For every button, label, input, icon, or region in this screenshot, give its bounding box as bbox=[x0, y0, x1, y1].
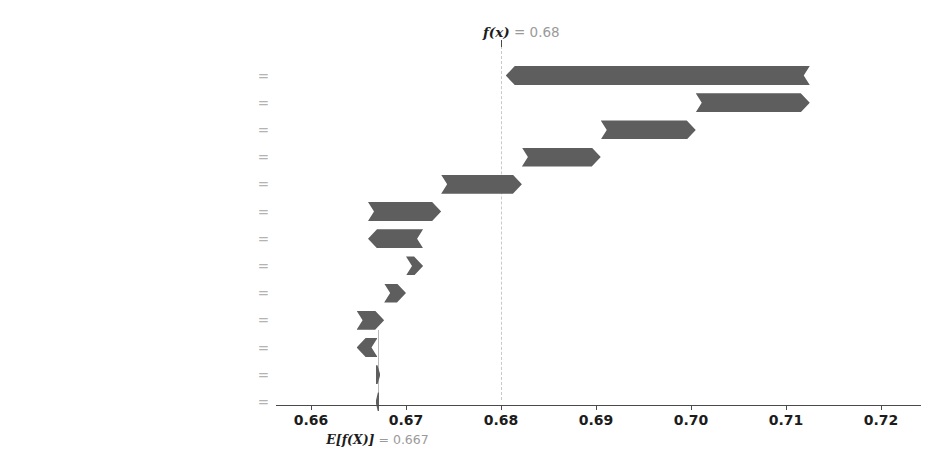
output-value-gridline bbox=[501, 46, 502, 400]
output-value-equals: = bbox=[510, 24, 530, 40]
x-axis-tick-label: 0.68 bbox=[484, 412, 519, 428]
shap-bar-value-label bbox=[386, 365, 426, 384]
shap-bar-value-label bbox=[384, 284, 406, 303]
equals-separator: = bbox=[255, 95, 272, 111]
equals-separator: = bbox=[255, 312, 272, 328]
equals-separator: = bbox=[255, 149, 272, 165]
y-axis-label-diabetes: = bbox=[255, 230, 272, 248]
y-axis-label-serum-creatinine: = bbox=[255, 67, 272, 85]
y-axis-labels: ============= bbox=[0, 0, 272, 469]
x-axis-tick bbox=[406, 405, 407, 410]
equals-separator: = bbox=[255, 231, 272, 247]
equals-separator: = bbox=[255, 204, 272, 220]
output-value-annotation: f(x) = 0.68 bbox=[483, 24, 560, 40]
output-value-symbol: f(x) bbox=[483, 24, 510, 40]
y-axis-label-smoking: = bbox=[255, 366, 272, 384]
shap-bar-value-label bbox=[696, 93, 810, 112]
equals-separator: = bbox=[255, 122, 272, 138]
x-axis-tick-label: 0.71 bbox=[769, 412, 804, 428]
y-axis-label-physical-environment: = bbox=[255, 393, 272, 411]
y-axis-label-platelates: = bbox=[255, 175, 272, 193]
x-axis-tick-label: 0.69 bbox=[579, 412, 614, 428]
x-axis-tick bbox=[786, 405, 787, 410]
x-axis-tick bbox=[596, 405, 597, 410]
y-axis-label-follow-up-time: = bbox=[255, 121, 272, 139]
x-axis-tick bbox=[881, 405, 882, 410]
output-value-tick-icon bbox=[501, 40, 502, 47]
shap-bar-value-label bbox=[601, 120, 696, 139]
x-axis-tick-label: 0.67 bbox=[389, 412, 424, 428]
equals-separator: = bbox=[255, 68, 272, 84]
x-axis-tick bbox=[501, 405, 502, 410]
equals-separator: = bbox=[255, 340, 272, 356]
x-axis-tick bbox=[691, 405, 692, 410]
output-value-number: 0.68 bbox=[530, 24, 560, 40]
equals-separator: = bbox=[255, 394, 272, 410]
shap-bar bbox=[376, 392, 380, 411]
equals-separator: = bbox=[255, 176, 272, 192]
shap-bar bbox=[376, 365, 381, 384]
y-axis-label-blood-type: = bbox=[255, 339, 272, 357]
x-axis-tick-label: 0.66 bbox=[294, 412, 329, 428]
y-axis-label-anemia: = bbox=[255, 257, 272, 275]
y-axis-label-ejection-fraction: = bbox=[255, 148, 272, 166]
x-axis-line bbox=[276, 405, 921, 406]
x-axis-tick-label: 0.70 bbox=[674, 412, 709, 428]
x-axis-tick-label: 0.72 bbox=[864, 412, 899, 428]
shap-bar-value-label bbox=[330, 392, 370, 411]
y-axis-label-gender: = bbox=[255, 311, 272, 329]
x-axis-tick bbox=[311, 405, 312, 410]
shap-bar-value-label bbox=[368, 202, 441, 221]
base-value-equals: = bbox=[375, 432, 393, 447]
shap-bar-value-label bbox=[368, 229, 423, 248]
shap-bar-value-label bbox=[406, 256, 423, 275]
equals-separator: = bbox=[255, 285, 272, 301]
base-value-annotation: E[f(X)] = 0.667 bbox=[326, 432, 428, 447]
shap-bar-value-label bbox=[311, 338, 351, 357]
shap-waterfall-chart: ============= 0.660.670.680.690.700.710.… bbox=[0, 0, 931, 469]
base-value-number: 0.667 bbox=[393, 432, 429, 447]
y-axis-label-blood-preasure: = bbox=[255, 284, 272, 302]
shap-bar-value-label bbox=[522, 148, 601, 167]
y-axis-label-serum-sodium: = bbox=[255, 203, 272, 221]
base-value-symbol: E[f(X)] bbox=[326, 432, 374, 447]
equals-separator: = bbox=[255, 367, 272, 383]
shap-bar-value-label bbox=[506, 66, 810, 85]
shap-bar-value-label bbox=[441, 175, 522, 194]
shap-bar bbox=[357, 338, 378, 357]
equals-separator: = bbox=[255, 258, 272, 274]
shap-bar-value-label bbox=[357, 311, 385, 330]
y-axis-label-age: = bbox=[255, 94, 272, 112]
